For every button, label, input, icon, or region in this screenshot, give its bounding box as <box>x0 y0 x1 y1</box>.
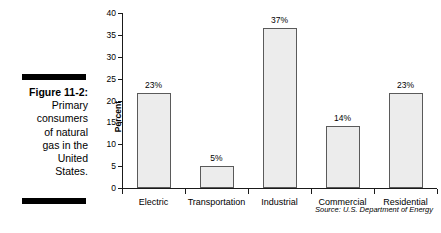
figure-container: Figure 11-2: Primary consumers of natura… <box>0 0 441 233</box>
y-tick-mark <box>118 122 122 123</box>
caption-line-4: gas in the <box>0 139 88 152</box>
y-tick-label: 10 <box>107 139 116 149</box>
bar <box>263 28 297 188</box>
caption-line-1: Primary <box>0 99 88 112</box>
source-note: Source: U.S. Department of Energy <box>96 205 437 214</box>
y-tick-mark <box>118 13 122 14</box>
caption-line-5: United <box>0 152 88 165</box>
bar <box>326 126 360 188</box>
bar-value-label: 14% <box>334 113 351 123</box>
y-tick-label: 5 <box>111 161 116 171</box>
y-axis-line <box>122 13 123 189</box>
caption-line-6: States. <box>0 165 88 178</box>
y-tick-label: 0 <box>111 183 116 193</box>
figure-caption-text: Figure 11-2: Primary consumers of natura… <box>0 86 88 178</box>
x-axis-line <box>122 188 437 189</box>
x-tick-mark <box>437 189 438 194</box>
x-tick-mark <box>374 189 375 194</box>
bar-value-label: 23% <box>145 80 162 90</box>
y-tick-label: 25 <box>107 74 116 84</box>
bar <box>200 166 234 188</box>
bar-chart: Percent 0510152025303540 23%5%37%14%23% … <box>96 0 441 233</box>
bar-value-label: 5% <box>210 153 222 163</box>
y-tick-mark <box>118 144 122 145</box>
x-tick-mark <box>185 189 186 194</box>
y-tick-label: 35 <box>107 30 116 40</box>
y-tick-label: 30 <box>107 52 116 62</box>
y-tick-label: 40 <box>107 8 116 18</box>
bar <box>389 93 423 188</box>
y-tick-mark <box>118 79 122 80</box>
caption-line-2: consumers <box>0 112 88 125</box>
y-tick-label: 15 <box>107 117 116 127</box>
y-tick-mark <box>118 166 122 167</box>
x-tick-mark <box>248 189 249 194</box>
figure-number-label: Figure 11-2: <box>0 86 88 99</box>
plot-area: Percent 0510152025303540 23%5%37%14%23% … <box>122 13 437 188</box>
y-tick-label: 20 <box>107 96 116 106</box>
bar-value-label: 23% <box>397 80 414 90</box>
caption-rule-bottom <box>22 198 86 204</box>
caption-rule-top <box>22 74 86 80</box>
caption-line-3: of natural <box>0 126 88 139</box>
bar-value-label: 37% <box>271 15 288 25</box>
bar <box>137 93 171 188</box>
figure-caption-block: Figure 11-2: Primary consumers of natura… <box>0 0 96 233</box>
y-tick-mark <box>118 101 122 102</box>
y-tick-mark <box>118 57 122 58</box>
x-tick-mark <box>311 189 312 194</box>
x-tick-mark <box>122 189 123 194</box>
y-tick-mark <box>118 35 122 36</box>
